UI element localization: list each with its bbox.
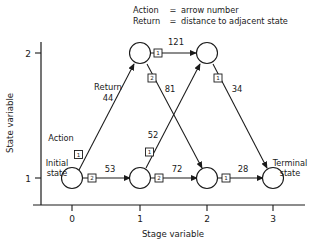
- node-n2_1[interactable]: [197, 168, 218, 189]
- action-num-n2_2-n3_1: 1: [216, 75, 220, 81]
- action-num-n1_1-n2_2: 1: [148, 149, 152, 155]
- action-num-n1_1-n2_1: 2: [157, 175, 161, 181]
- action-callout-group: Action: [48, 133, 74, 143]
- terminal-state-label-line2: state: [280, 168, 301, 178]
- return-label-n1_1-n2_1: 72: [172, 164, 183, 174]
- edges-group: [79, 53, 267, 178]
- return-label-n0_1-n1_2: 44: [103, 93, 114, 103]
- x-tick-label-1: 1: [137, 214, 143, 224]
- y-axis-title: State variable: [5, 93, 15, 153]
- return-label-n1_1-n2_2: 52: [148, 130, 159, 140]
- return-label-n1_2-n2_1: 81: [165, 84, 176, 94]
- x-tick-label-0: 0: [69, 214, 75, 224]
- action-boxes-group: 1 2 1 2 1 2 1 1: [75, 49, 231, 182]
- legend-return-definition: distance to adjacent state: [181, 16, 288, 26]
- x-tick-label-3: 3: [270, 214, 276, 224]
- action-num-n0_1-n1_1: 2: [90, 175, 94, 181]
- state-stage-network-diagram: Action = arrow number Return = distance …: [0, 0, 318, 242]
- figure-container: Action = arrow number Return = distance …: [0, 0, 318, 242]
- y-tick-label-2: 2: [25, 49, 31, 59]
- legend-action-term: Action: [133, 5, 159, 15]
- return-label-n2_2-n3_1: 34: [232, 84, 243, 94]
- initial-state-label-line2: state: [47, 168, 68, 178]
- node-n1_1[interactable]: [130, 168, 151, 189]
- node-n2_2[interactable]: [197, 43, 218, 64]
- legend-action-equals: =: [170, 5, 177, 15]
- legend: Action = arrow number Return = distance …: [133, 5, 288, 26]
- initial-state-label-line1: Initial: [46, 158, 69, 168]
- return-label-n2_1-n3_1: 28: [238, 164, 249, 174]
- action-callout-label: Action: [48, 133, 74, 143]
- action-num-n2_1-n3_1: 1: [224, 175, 228, 181]
- x-tick-label-2: 2: [204, 214, 210, 224]
- action-num-n1_2-n2_1: 2: [150, 75, 154, 81]
- action-num-n0_1-n1_2: 1: [77, 152, 81, 158]
- y-tick-label-1: 1: [25, 174, 31, 184]
- terminal-state-label-line1: Terminal: [272, 158, 308, 168]
- legend-return-equals: =: [170, 16, 177, 26]
- x-axis-title: Stage variable: [142, 229, 204, 239]
- legend-return-term: Return: [133, 16, 160, 26]
- node-n1_2[interactable]: [130, 43, 151, 64]
- action-num-n1_2-n2_2: 1: [156, 50, 160, 56]
- legend-action-definition: arrow number: [181, 5, 239, 15]
- return-label-n1_2-n2_2: 121: [168, 37, 184, 47]
- return-label-n0_1-n1_1: 53: [105, 164, 116, 174]
- return-labels-group: Return 44 53 121 81 52 72 34 28: [94, 37, 248, 174]
- return-callout-word: Return: [94, 82, 122, 92]
- edge-n0_1-to-n1_2: [79, 64, 134, 170]
